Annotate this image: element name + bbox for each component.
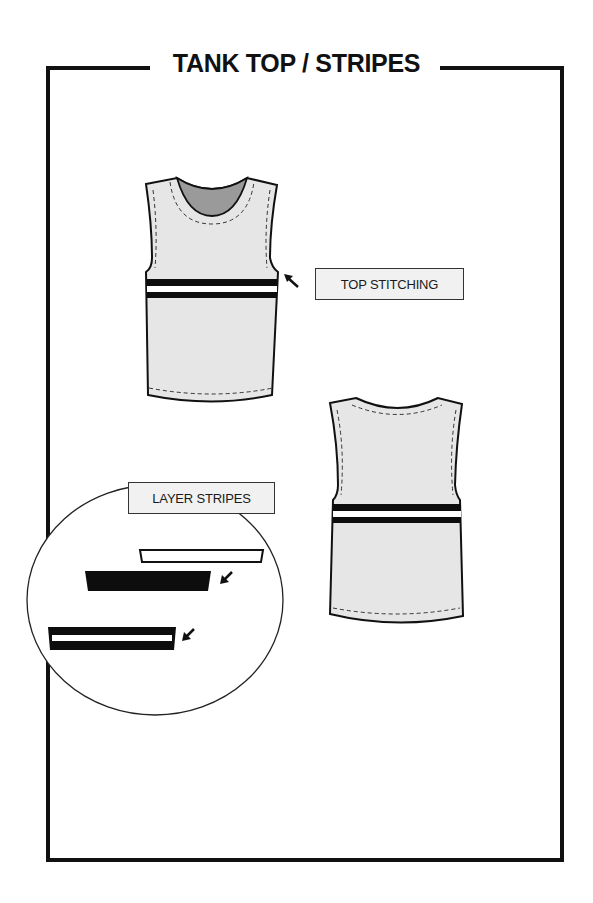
spec-sheet: TANK TOP / STRIPES TOP STITCHING LAYER S… bbox=[0, 0, 593, 903]
front-tank-top bbox=[146, 178, 278, 402]
layer-stripes-label: LAYER STRIPES bbox=[152, 491, 250, 506]
layer-stripes-callout: LAYER STRIPES bbox=[128, 482, 275, 514]
stripe-layer-white bbox=[140, 550, 263, 562]
back-tank-top bbox=[330, 398, 463, 623]
layer-stripes-detail-circle bbox=[27, 485, 283, 715]
back-stripes bbox=[333, 504, 461, 523]
arrow-icon bbox=[284, 274, 298, 287]
top-stitching-label: TOP STITCHING bbox=[341, 277, 438, 292]
top-stitching-callout: TOP STITCHING bbox=[315, 268, 464, 300]
frame-border bbox=[48, 68, 562, 860]
stripe-layer-black bbox=[85, 571, 211, 591]
front-stripes bbox=[147, 279, 277, 298]
drawing-canvas bbox=[0, 0, 593, 903]
stripe-layer-assembled bbox=[48, 627, 176, 650]
